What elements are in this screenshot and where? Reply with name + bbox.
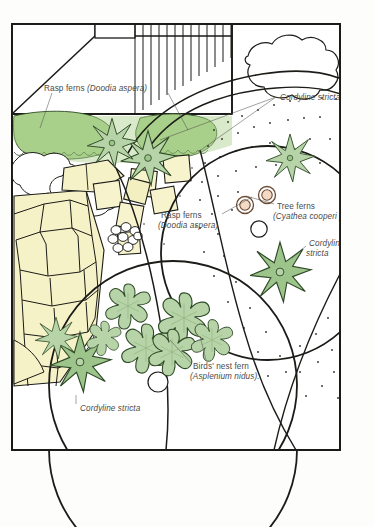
canopy-spread-bottom-overflow — [49, 450, 297, 527]
label-cordyline-right-line2: stricta — [306, 249, 329, 258]
tree-fern-trunk — [251, 221, 267, 237]
label-rasp-ferns-middle-line2: (Doodia aspera) — [158, 221, 218, 230]
label-cordyline-top-right: Cordyline stricta — [280, 93, 341, 102]
tree-fern-trunk — [237, 197, 254, 214]
label-rasp-ferns-middle-line1: Rasp ferns — [161, 211, 202, 220]
stepping-stone — [124, 178, 151, 205]
stepping-stone — [150, 186, 178, 214]
label-tree-ferns-bottom: Tree ferns (Cyathea cooperi ) — [104, 450, 214, 459]
label-cordyline-bottom-left: Cordyline stricta — [80, 404, 141, 413]
label-rasp-ferns-top: Rasp ferns (Doodia aspera) — [44, 84, 147, 93]
label-tree-ferns-right-line1: Tree ferns — [277, 202, 315, 211]
stepping-stone — [93, 180, 122, 209]
house-pergola — [12, 24, 232, 114]
garden-plan-page: Rasp ferns (Doodia aspera) Cordyline str… — [0, 0, 374, 527]
tree-fern-trunk — [259, 187, 276, 204]
label-birds-nest-line2: (Asplenium nidus). — [190, 372, 260, 381]
garden-plan-drawing: Rasp ferns (Doodia aspera) Cordyline str… — [0, 0, 374, 527]
label-birds-nest-line1: Birds' nest fern — [193, 362, 249, 371]
label-tree-ferns-right-line2: (Cyathea cooperi ) — [273, 212, 342, 221]
